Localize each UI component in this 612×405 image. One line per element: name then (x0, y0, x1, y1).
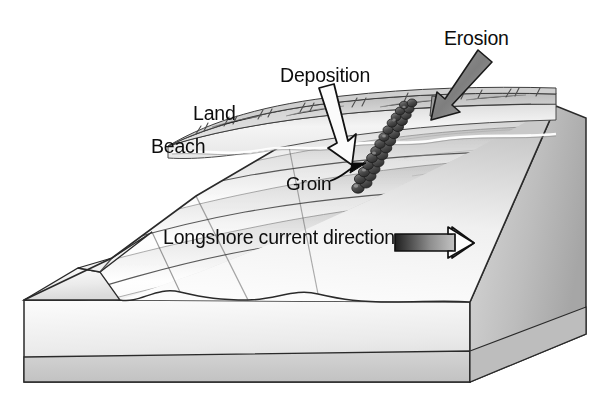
block-diagram-illustration (0, 0, 612, 405)
groin-label: Groin (286, 174, 331, 193)
basal-strata-band (24, 351, 470, 382)
land-label: Land (193, 104, 236, 124)
diagram-canvas: Erosion Deposition Land Beach Groin Long… (0, 0, 612, 405)
beach-label: Beach (151, 137, 205, 157)
block-front-face (24, 300, 470, 382)
longshore-current-label: Longshore current direction (163, 228, 395, 248)
deposition-label: Deposition (280, 66, 370, 86)
erosion-label: Erosion (444, 29, 509, 49)
